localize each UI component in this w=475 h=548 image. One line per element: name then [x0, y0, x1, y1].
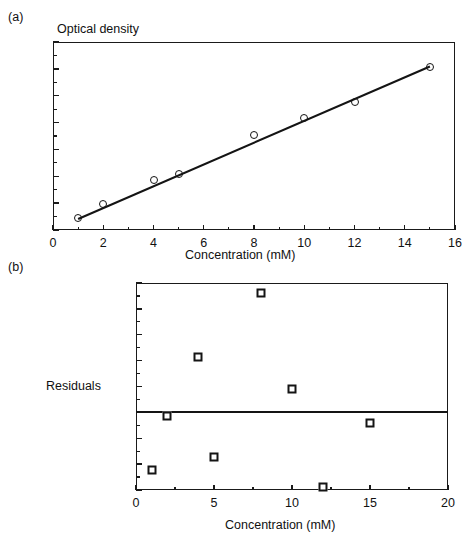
chart-b-x-tick	[135, 485, 136, 490]
chart-b-y-minor-tick	[136, 347, 140, 348]
chart-b-data-point	[319, 483, 328, 492]
chart-b-data-point	[163, 411, 172, 420]
chart-b-data-point	[288, 385, 297, 394]
chart-b-y-minor-tick	[136, 425, 140, 426]
chart-b-y-minor-tick	[136, 399, 140, 400]
chart-b-y-minor-tick	[136, 321, 140, 322]
chart-b-x-tick-label: 15	[363, 497, 377, 510]
chart-b-x-minor-tick	[330, 487, 331, 491]
chart-b-x-axis-title: Concentration (mM)	[225, 518, 335, 532]
chart-b-y-minor-tick	[136, 476, 140, 477]
chart-b-y-tick	[136, 334, 142, 335]
chart-b-y-minor-tick	[136, 295, 140, 296]
chart-b-x-tick	[291, 485, 292, 490]
chart-b-x-tick	[369, 485, 370, 490]
chart-b-x-tick-label: 20	[441, 497, 455, 510]
figure-canvas: (a) Optical density 01020304050607002468…	[0, 0, 475, 548]
chart-b-x-tick	[447, 485, 448, 490]
chart-b-x-tick	[213, 485, 214, 490]
panel-b-label: (b)	[8, 260, 24, 274]
chart-b-data-point	[210, 453, 219, 462]
chart-b-data-point	[194, 353, 203, 362]
chart-b-x-tick-label: 5	[211, 497, 218, 510]
chart-b-y-tick	[136, 386, 142, 387]
chart-b-y-tick	[136, 360, 142, 361]
chart-b-x-minor-tick	[408, 487, 409, 491]
chart-b-x-minor-tick	[252, 487, 253, 491]
chart-b-y-tick	[136, 438, 142, 439]
chart-b-x-tick-label: 0	[133, 497, 140, 510]
chart-b-y-minor-tick	[136, 373, 140, 374]
chart-b-data-point	[366, 418, 375, 427]
chart-b-x-tick-label: 10	[285, 497, 299, 510]
chart-b-data-point	[256, 289, 265, 298]
chart-b-zero-reference-line	[136, 411, 448, 413]
chart-b-y-tick	[136, 282, 142, 283]
chart-b-data-point	[147, 466, 156, 475]
chart-b-y-axis-title: Residuals	[46, 379, 101, 393]
chart-b-y-minor-tick	[136, 451, 140, 452]
chart-b-y-tick	[136, 463, 142, 464]
chart-a-x-axis-title: Concentration (mM)	[185, 248, 295, 262]
chart-b-y-tick	[136, 308, 142, 309]
chart-b-y-tick	[136, 489, 142, 490]
chart-b-x-minor-tick	[174, 487, 175, 491]
